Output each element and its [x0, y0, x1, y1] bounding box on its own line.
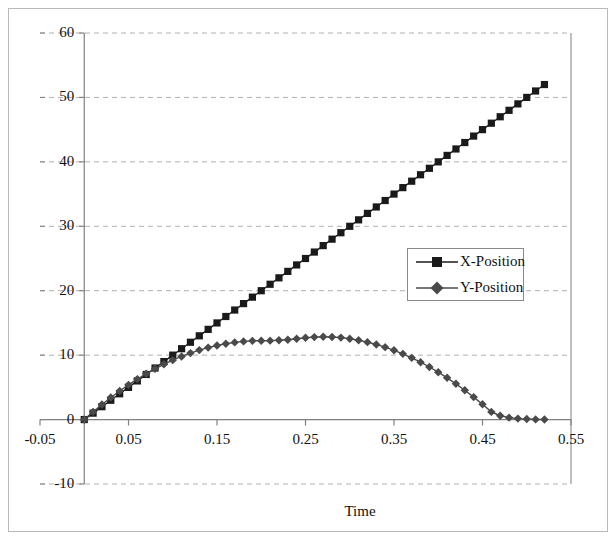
- y-tick-label: 40: [32, 154, 74, 169]
- y-tick-label: 30: [32, 218, 74, 233]
- y-tick-label: 10: [32, 347, 74, 362]
- chart-screenshot: -100102030405060 -0.050.050.150.250.350.…: [0, 0, 616, 540]
- y-tick-label: 20: [32, 283, 74, 298]
- x-axis-title: Time: [260, 503, 460, 520]
- x-tick-label: 0.15: [182, 432, 252, 447]
- legend-label: X-Position: [460, 253, 525, 270]
- diamond-marker-icon: [414, 275, 460, 301]
- legend-item-y-position: Y-Position: [408, 275, 525, 301]
- square-marker-icon: [414, 249, 460, 275]
- legend-item-x-position: X-Position: [408, 249, 525, 275]
- chart-plot-area: -100102030405060 -0.050.050.150.250.350.…: [0, 0, 616, 540]
- x-tick-label: 0.35: [359, 432, 429, 447]
- y-tick-label: -10: [32, 476, 74, 491]
- y-tick-label: 50: [32, 89, 74, 104]
- x-tick-label: 0.05: [94, 432, 164, 447]
- chart-legend: X-Position Y-Position: [407, 248, 524, 301]
- y-tick-label: 60: [32, 25, 74, 40]
- x-tick-label: -0.05: [5, 432, 75, 447]
- x-tick-label: 0.45: [448, 432, 518, 447]
- legend-label: Y-Position: [460, 279, 523, 296]
- x-tick-label: 0.55: [536, 432, 606, 447]
- y-tick-label: 0: [32, 412, 74, 427]
- x-tick-label: 0.25: [271, 432, 341, 447]
